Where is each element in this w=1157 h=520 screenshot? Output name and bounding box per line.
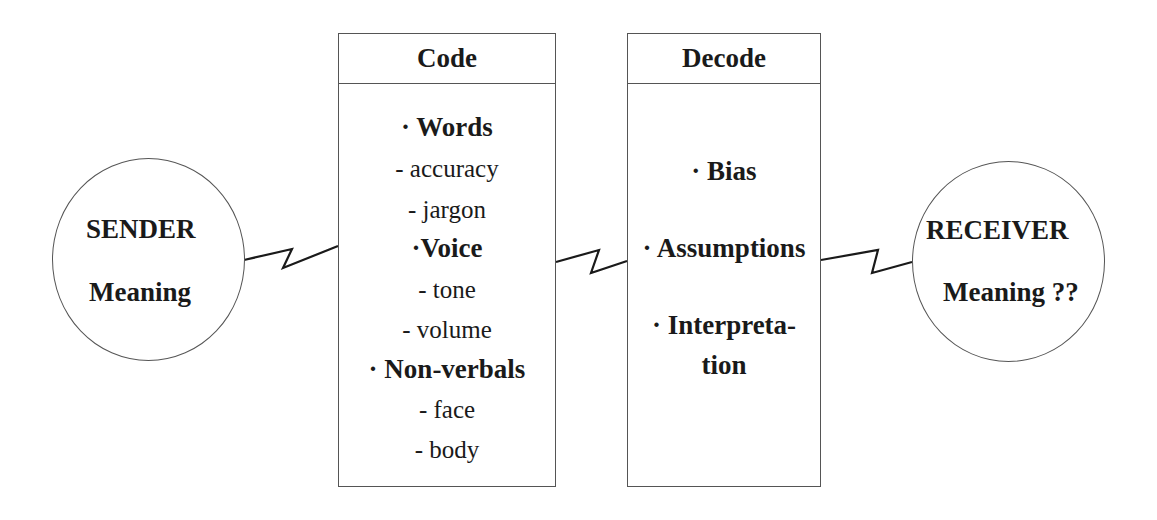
code-header: Code — [339, 34, 555, 84]
code-item-jargon: - jargon — [339, 197, 555, 222]
code-item-face: - face — [339, 397, 555, 422]
code-item-voice: ·Voice — [339, 235, 555, 262]
zigzag-connector-code-decode — [556, 250, 627, 273]
decode-item-assumptions: · Assumptions — [628, 235, 820, 262]
code-item-body: - body — [339, 437, 555, 462]
sender-meaning: Meaning — [89, 277, 191, 308]
zigzag-connector-decode-receiver — [821, 250, 912, 273]
code-item-tone: - tone — [339, 277, 555, 302]
sender-circle — [52, 158, 245, 361]
decode-box: Decode · Bias · Assumptions · Interpreta… — [627, 33, 821, 487]
zigzag-connector-sender-code — [244, 246, 338, 268]
receiver-title: RECEIVER — [926, 215, 1069, 246]
decode-item-interpretation-2: tion — [628, 352, 820, 379]
code-item-volume: - volume — [339, 317, 555, 342]
decode-item-interpretation-1: · Interpreta- — [628, 312, 820, 339]
sender-title: SENDER — [86, 214, 196, 245]
code-box: Code · Words - accuracy - jargon ·Voice … — [338, 33, 556, 487]
decode-item-bias: · Bias — [628, 158, 820, 185]
receiver-meaning: Meaning ?? — [943, 277, 1079, 308]
code-item-accuracy: - accuracy — [339, 156, 555, 181]
code-item-words: · Words — [339, 114, 555, 141]
decode-header: Decode — [628, 34, 820, 84]
code-item-non-verbals: · Non-verbals — [339, 356, 555, 383]
receiver-circle — [912, 161, 1105, 362]
